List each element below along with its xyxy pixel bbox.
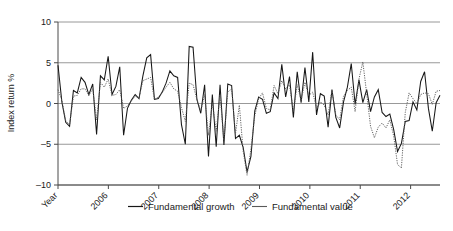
y-tick-label: 0	[46, 99, 51, 109]
legend-label[interactable]: Fundamental value	[272, 201, 353, 212]
index-return-line-chart: –10–50510 Year20062007200820092010201120…	[0, 0, 453, 231]
y-tick-label: –5	[41, 139, 51, 149]
y-axis-label: Index return %	[6, 74, 16, 133]
legend-label[interactable]: Fundamental growth	[148, 201, 235, 212]
y-tick-label: 10	[41, 17, 51, 27]
y-tick-label: –10	[36, 180, 51, 190]
y-tick-label: 5	[46, 58, 51, 68]
chart-container: –10–50510 Year20062007200820092010201120…	[0, 0, 453, 231]
